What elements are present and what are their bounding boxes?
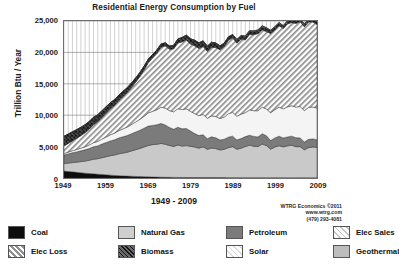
legend-label: Elec Loss	[31, 247, 67, 256]
x-tick-2009: 2009	[310, 181, 327, 190]
legend-label: Solar	[249, 247, 269, 256]
x-tick-1959: 1959	[97, 181, 114, 190]
legend-row-1: CoalNatural GasPetroleumElec Sales	[8, 224, 343, 241]
legend-row-2: Elec LossBiomassSolarGeothermal	[8, 243, 343, 260]
petroleum-swatch	[226, 226, 243, 239]
legend-label: Geothermal	[356, 247, 399, 256]
x-axis-tick-labels: 1949195919691979198919992009	[0, 181, 348, 193]
x-tick-1979: 1979	[182, 181, 199, 190]
legend-label: Coal	[31, 228, 48, 237]
plot-area	[63, 20, 318, 179]
y-tick-20000: 20,000	[18, 47, 58, 56]
legend-label: Natural Gas	[141, 228, 185, 237]
credit-line-3: (479) 293-4081	[232, 216, 342, 222]
y-tick-5000: 5,000	[18, 143, 58, 152]
legend-item-petroleum[interactable]: Petroleum	[226, 224, 287, 241]
legend-item-geothermal[interactable]: Geothermal	[333, 243, 399, 260]
solar-swatch	[226, 245, 243, 258]
chart-legend: CoalNatural GasPetroleumElec Sales Elec …	[8, 224, 343, 264]
legend-item-biomass[interactable]: Biomass	[118, 243, 174, 260]
natural-gas-swatch	[118, 226, 135, 239]
y-tick-15000: 15,000	[18, 79, 58, 88]
elec-loss-swatch	[8, 245, 25, 258]
credit-block: WTRG Economics ©2011 www.wtrg.com (479) …	[232, 203, 342, 222]
x-tick-1969: 1969	[140, 181, 157, 190]
biomass-swatch	[118, 245, 135, 258]
stacked-area-svg	[64, 21, 317, 178]
coal-swatch	[8, 226, 25, 239]
y-tick-10000: 10,000	[18, 111, 58, 120]
legend-label: Biomass	[141, 247, 174, 256]
legend-label: Elec Sales	[356, 228, 395, 237]
legend-label: Petroleum	[249, 228, 287, 237]
y-tick-25000: 25,000	[18, 16, 58, 25]
x-tick-1989: 1989	[225, 181, 242, 190]
geothermal-swatch	[333, 245, 350, 258]
legend-item-elec-sales[interactable]: Elec Sales	[333, 224, 395, 241]
legend-item-solar[interactable]: Solar	[226, 243, 269, 260]
x-tick-1949: 1949	[55, 181, 72, 190]
x-tick-1999: 1999	[267, 181, 284, 190]
legend-item-natural-gas[interactable]: Natural Gas	[118, 224, 185, 241]
elec-sales-swatch	[333, 226, 350, 239]
legend-item-coal[interactable]: Coal	[8, 224, 48, 241]
legend-item-elec-loss[interactable]: Elec Loss	[8, 243, 67, 260]
